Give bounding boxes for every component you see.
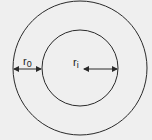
concentric-circles-diagram: r0 ri [0,0,152,140]
inner-radius-label: ri [73,56,79,70]
outer-circle [13,1,147,135]
outer-thickness-label: r0 [23,55,32,69]
inner-circle [42,30,118,106]
